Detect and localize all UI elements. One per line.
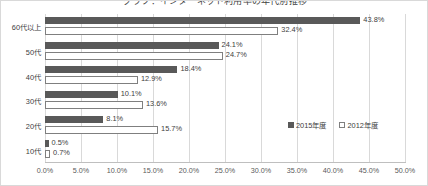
bar-value-label: 15.7% [161, 125, 182, 133]
bar-group: 43.8%32.4% [45, 14, 405, 39]
category-label-40代: 40代 [1, 71, 41, 82]
bar-2012年度[interactable] [45, 126, 158, 134]
x-tick-label: 10.0% [107, 166, 127, 175]
bar-2015年度[interactable] [45, 66, 177, 73]
bar-value-label: 8.1% [106, 115, 123, 123]
bar-2015年度[interactable] [45, 140, 49, 147]
x-tick-label: 5.0% [73, 166, 89, 175]
bar-2012年度[interactable] [45, 27, 278, 35]
category-label-30代: 30代 [1, 95, 41, 106]
bar-group: 0.5%0.7% [45, 137, 405, 162]
x-tick-label: 45.0% [359, 166, 379, 175]
chart-title: グラフ：インターネット利用率の年代別推移 [1, 0, 428, 7]
bar-2012年度[interactable] [45, 101, 143, 109]
bar-2012年度[interactable] [45, 150, 50, 158]
bar-2012年度[interactable] [45, 52, 223, 60]
bar-value-label: 12.9% [141, 75, 162, 83]
bar-value-label: 18.4% [180, 65, 201, 73]
legend-label-2015: 2015年度 [296, 119, 326, 130]
x-tick-label: 40.0% [323, 166, 343, 175]
legend-item-2015[interactable]: 2015年度 [288, 119, 326, 130]
legend-swatch-filled-icon [288, 122, 294, 128]
bar-2012年度[interactable] [45, 76, 138, 84]
bar-2015年度[interactable] [45, 42, 219, 49]
bar-2015年度[interactable] [45, 17, 360, 24]
bar-value-label: 0.5% [52, 139, 69, 147]
bar-value-label: 10.1% [121, 90, 142, 98]
bar-value-label: 13.6% [146, 100, 167, 108]
category-label-50代: 50代 [1, 46, 41, 57]
x-tick-label: 20.0% [179, 166, 199, 175]
bar-value-label: 24.7% [226, 51, 247, 59]
bar-2015年度[interactable] [45, 91, 118, 98]
bar-value-label: 24.1% [222, 41, 243, 49]
category-label-10代: 10代 [1, 145, 41, 156]
bar-group: 10.1%13.6% [45, 88, 405, 113]
x-tick-label: 30.0% [251, 166, 271, 175]
legend-swatch-hollow-icon [339, 122, 345, 128]
gridline [405, 14, 406, 162]
plot-area: 43.8%32.4%24.1%24.7%18.4%12.9%10.1%13.6%… [45, 14, 405, 162]
bar-group: 24.1%24.7% [45, 39, 405, 64]
bar-chart: グラフ：インターネット利用率の年代別推移 43.8%32.4%24.1%24.7… [0, 0, 428, 186]
x-tick-label: 35.0% [287, 166, 307, 175]
x-axis-line [45, 162, 406, 163]
category-label-60代以上: 60代以上 [1, 21, 41, 32]
bar-value-label: 43.8% [363, 16, 384, 24]
bar-value-label: 0.7% [53, 149, 70, 157]
x-tick-label: 0.0% [37, 166, 53, 175]
category-label-20代: 20代 [1, 120, 41, 131]
x-tick-label: 25.0% [215, 166, 235, 175]
x-tick-label: 15.0% [143, 166, 163, 175]
bar-value-label: 32.4% [281, 26, 302, 34]
bar-2015年度[interactable] [45, 116, 103, 123]
legend: 2015年度 2012年度 [288, 119, 378, 130]
bar-group: 18.4%12.9% [45, 63, 405, 88]
legend-label-2012: 2012年度 [347, 119, 377, 130]
x-tick-label: 50.0% [395, 166, 415, 175]
legend-item-2012[interactable]: 2012年度 [339, 119, 377, 130]
